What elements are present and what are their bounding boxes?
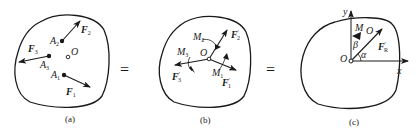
label-fr-prime: F′R — [377, 41, 388, 53]
point-o — [207, 57, 211, 61]
point-a2 — [60, 39, 64, 43]
point-a3 — [47, 54, 51, 58]
label-o: O — [340, 53, 347, 64]
label-y: y — [342, 6, 348, 17]
force-arrow-f2 — [62, 21, 80, 41]
label-f1-prime: F′1 — [221, 77, 231, 89]
force-system-reduction-diagram: A2 F2 O A3 F3 A1 F1 (a) = M2 F′2 M3 F′3 — [0, 0, 420, 135]
label-f1: F1 — [65, 86, 76, 98]
label-x: x — [396, 65, 402, 76]
label-a2: A2 — [49, 35, 59, 47]
label-o: O — [71, 46, 78, 57]
label-m: M — [354, 22, 364, 33]
label-m2: M2 — [192, 31, 204, 43]
caption-c: (c) — [349, 117, 359, 127]
point-o — [349, 59, 353, 63]
panel-a: A2 F2 O A3 F3 A1 F1 (a) — [15, 15, 109, 124]
point-o — [66, 55, 70, 59]
equals-sign-2: = — [266, 61, 275, 78]
label-f2: F2 — [80, 24, 91, 36]
label-f2-prime: F′2 — [230, 29, 240, 41]
caption-a: (a) — [65, 114, 75, 124]
panel-c: y x F′R M O α β O (c) — [301, 6, 408, 127]
force-arrow-f3-prime — [175, 59, 209, 65]
point-a1 — [62, 73, 66, 77]
label-beta: β — [352, 39, 358, 50]
label-o: O — [200, 47, 207, 58]
label-f3-prime: F′3 — [171, 71, 181, 83]
force-arrow-f2-prime — [209, 30, 227, 59]
label-m3: M3 — [176, 46, 188, 58]
label-o-top: O — [366, 25, 373, 36]
moment-m3-arrowhead — [189, 66, 195, 73]
panel-b: M2 F′2 M3 F′3 M1 F′1 O (b) — [159, 17, 250, 125]
caption-b: (b) — [200, 115, 211, 125]
label-alpha: α — [361, 49, 367, 60]
rigid-body-outline — [15, 15, 109, 107]
label-a3: A3 — [39, 59, 49, 71]
label-a1: A1 — [50, 69, 60, 81]
label-f3: F3 — [27, 43, 38, 55]
equals-sign-1: = — [120, 61, 129, 78]
moment-m1-arrowhead — [223, 53, 229, 60]
